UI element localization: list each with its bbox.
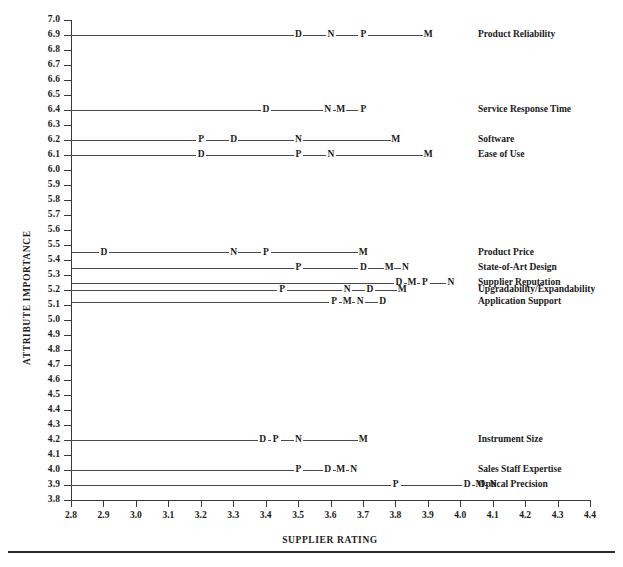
y-axis-tick <box>64 455 71 456</box>
x-axis-tick <box>493 500 494 507</box>
data-point-marker-D[interactable]: D <box>294 30 304 39</box>
data-point-marker-M[interactable]: M <box>423 30 433 39</box>
data-point-marker-D[interactable]: D <box>323 465 333 474</box>
data-point-marker-N[interactable]: N <box>294 435 304 444</box>
data-point-marker-P[interactable]: P <box>420 278 430 287</box>
row-label: Ease of Use <box>478 149 524 159</box>
y-axis-tick <box>64 200 71 201</box>
data-point-marker-P[interactable]: P <box>294 150 304 159</box>
data-point-marker-N[interactable]: N <box>294 135 304 144</box>
y-axis-tick <box>64 65 71 66</box>
x-axis-tick <box>460 500 461 507</box>
data-point-marker-M[interactable]: M <box>423 150 433 159</box>
data-point-marker-P[interactable]: P <box>277 285 287 294</box>
data-point-marker-D[interactable]: D <box>229 135 239 144</box>
data-point-marker-P[interactable]: P <box>391 480 401 489</box>
data-point-marker-P[interactable]: P <box>329 297 339 306</box>
data-point-marker-N[interactable]: N <box>342 285 352 294</box>
y-axis-tick-label: 6.8 <box>30 44 60 54</box>
y-axis-tick-label: 5.1 <box>30 299 60 309</box>
y-axis-tick-label: 4.7 <box>30 359 60 369</box>
data-point-marker-P[interactable]: P <box>261 248 271 257</box>
x-axis-tick-label: 3.7 <box>347 510 379 520</box>
data-point-marker-P[interactable]: P <box>358 30 368 39</box>
data-point-marker-D[interactable]: D <box>258 435 268 444</box>
x-axis-tick <box>266 500 267 507</box>
y-axis-tick-label: 4.4 <box>30 404 60 414</box>
data-point-marker-N[interactable]: N <box>349 465 359 474</box>
y-axis-tick <box>64 380 71 381</box>
y-axis-tick-label: 5.6 <box>30 224 60 234</box>
x-axis-tick <box>233 500 234 507</box>
y-axis-tick-label: 4.2 <box>30 434 60 444</box>
data-point-marker-M[interactable]: M <box>397 285 407 294</box>
y-axis-tick <box>64 290 71 291</box>
data-point-marker-N[interactable]: N <box>326 30 336 39</box>
data-point-marker-N[interactable]: N <box>229 248 239 257</box>
data-point-marker-D[interactable]: D <box>99 248 109 257</box>
y-axis-tick-label: 5.4 <box>30 254 60 264</box>
y-axis-tick-label: 4.6 <box>30 374 60 384</box>
data-point-marker-N[interactable]: N <box>323 105 333 114</box>
y-axis-tick <box>64 500 71 501</box>
data-point-marker-M[interactable]: M <box>336 465 346 474</box>
data-point-marker-P[interactable]: P <box>196 135 206 144</box>
data-point-marker-D[interactable]: D <box>462 480 472 489</box>
x-axis-tick <box>168 500 169 507</box>
y-axis-tick-label: 5.3 <box>30 269 60 279</box>
data-point-marker-M[interactable]: M <box>391 135 401 144</box>
data-point-marker-D[interactable]: D <box>358 263 368 272</box>
data-point-marker-N[interactable]: N <box>401 263 411 272</box>
y-axis-tick <box>64 170 71 171</box>
data-point-marker-M[interactable]: M <box>407 278 417 287</box>
x-axis-tick <box>136 500 137 507</box>
y-axis-tick <box>64 335 71 336</box>
row-label: State-of-Art Design <box>478 262 557 272</box>
y-axis-tick <box>64 95 71 96</box>
y-axis-tick <box>64 320 71 321</box>
row-line <box>71 35 428 36</box>
x-axis-tick <box>525 500 526 507</box>
row-label: Optical Precision <box>478 479 548 489</box>
bottom-divider <box>8 551 615 553</box>
y-axis-tick-label: 4.0 <box>30 464 60 474</box>
row-line <box>71 290 402 291</box>
data-point-marker-N[interactable]: N <box>446 278 456 287</box>
row-line <box>71 440 363 441</box>
x-axis-tick-label: 4.1 <box>477 510 509 520</box>
x-axis-tick <box>558 500 559 507</box>
y-axis-tick <box>64 470 71 471</box>
x-axis-tick-label: 4.3 <box>542 510 574 520</box>
data-point-marker-N[interactable]: N <box>355 297 365 306</box>
row-line <box>71 155 428 156</box>
y-axis-tick-label: 5.7 <box>30 209 60 219</box>
data-point-marker-M[interactable]: M <box>336 105 346 114</box>
data-point-marker-D[interactable]: D <box>365 285 375 294</box>
data-point-marker-M[interactable]: M <box>358 435 368 444</box>
x-axis-tick <box>331 500 332 507</box>
x-axis-tick-label: 3.3 <box>217 510 249 520</box>
y-axis-tick <box>64 50 71 51</box>
data-point-marker-M[interactable]: M <box>384 263 394 272</box>
y-axis-tick <box>64 245 71 246</box>
y-axis-tick-label: 5.9 <box>30 179 60 189</box>
y-axis-tick-label: 6.3 <box>30 119 60 129</box>
data-point-marker-M[interactable]: M <box>342 297 352 306</box>
y-axis-tick <box>64 365 71 366</box>
x-axis-tick-label: 4.0 <box>444 510 476 520</box>
data-point-marker-P[interactable]: P <box>294 465 304 474</box>
plot-area: 7.06.96.86.76.66.56.46.36.26.16.05.95.85… <box>0 0 623 567</box>
data-point-marker-P[interactable]: P <box>271 435 281 444</box>
y-axis-tick <box>64 140 71 141</box>
y-axis-tick-label: 5.0 <box>30 314 60 324</box>
row-label: Instrument Size <box>478 434 543 444</box>
data-point-marker-P[interactable]: P <box>358 105 368 114</box>
data-point-marker-D[interactable]: D <box>261 105 271 114</box>
y-axis-title: ATTRIBUTE IMPORTANCE <box>22 230 32 365</box>
data-point-marker-N[interactable]: N <box>326 150 336 159</box>
data-point-marker-P[interactable]: P <box>294 263 304 272</box>
data-point-marker-D[interactable]: D <box>378 297 388 306</box>
data-point-marker-D[interactable]: D <box>196 150 206 159</box>
y-axis-tick <box>64 35 71 36</box>
data-point-marker-M[interactable]: M <box>358 248 368 257</box>
